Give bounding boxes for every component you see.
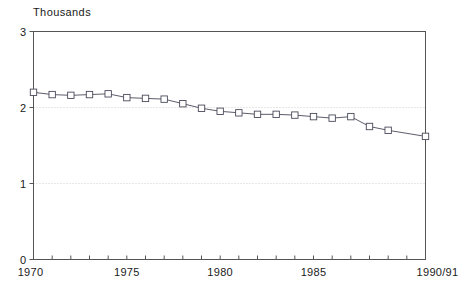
y-tick-labels: 0123 (20, 26, 26, 266)
data-point-marker (292, 112, 298, 118)
data-point-marker (86, 91, 92, 97)
data-point-marker (273, 111, 279, 117)
data-point-marker (124, 94, 130, 100)
x-tick-label: 1975 (114, 266, 140, 278)
line-chart: 0123 19701975198019851990/91 (0, 0, 458, 298)
x-tick-labels: 19701975198019851990/91 (18, 266, 458, 278)
data-point-marker (180, 101, 186, 107)
y-tick-label: 1 (20, 178, 26, 190)
gridlines (34, 108, 426, 184)
data-point-marker (198, 105, 204, 111)
data-point-marker (161, 96, 167, 102)
data-point-marker (366, 123, 372, 129)
data-point-marker (422, 133, 428, 139)
data-point-marker (348, 113, 354, 119)
data-point-marker (385, 127, 391, 133)
data-point-marker (310, 113, 316, 119)
plot-border (34, 32, 426, 260)
x-tick-label: 1985 (301, 266, 327, 278)
data-markers (30, 89, 428, 139)
data-point-marker (30, 89, 36, 95)
data-point-marker (217, 108, 223, 114)
y-tick-label: 0 (20, 254, 26, 266)
data-point-marker (254, 111, 260, 117)
data-point-marker (105, 91, 111, 97)
data-point-marker (49, 91, 55, 97)
y-tick-label: 3 (20, 26, 26, 38)
plot-frame (34, 32, 426, 260)
y-tick-label: 2 (20, 102, 26, 114)
x-tick-label: 1970 (18, 266, 44, 278)
data-point-marker (236, 110, 242, 116)
y-axis (30, 32, 34, 260)
x-axis (34, 256, 426, 260)
data-point-marker (329, 115, 335, 121)
chart-page: Thousands 0123 19701975198019851990/91 (0, 0, 458, 298)
x-tick-label: 1990/91 (417, 266, 458, 278)
data-point-marker (142, 95, 148, 101)
x-tick-label: 1980 (207, 266, 233, 278)
data-point-marker (68, 92, 74, 98)
